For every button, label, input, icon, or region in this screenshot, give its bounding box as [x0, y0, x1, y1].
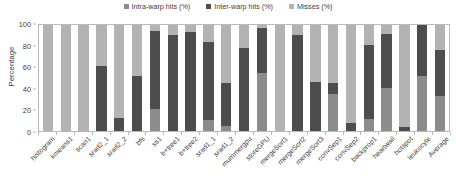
bar-segment-inter-warp [257, 28, 267, 73]
stacked-bar[interactable] [185, 25, 195, 131]
bar-slot[interactable] [182, 25, 200, 131]
bar-segment-misses [168, 25, 178, 35]
bar-slot[interactable] [39, 25, 57, 131]
y-tick-mark [33, 110, 36, 111]
bar-segment-intra-warp [150, 109, 160, 131]
y-axis-ticks: 020406080100 [0, 24, 36, 132]
legend-misses[interactable]: Misses (%) [289, 2, 333, 11]
plot-area [38, 24, 450, 132]
stacked-bar[interactable] [203, 25, 213, 131]
bar-segment-inter-warp [185, 32, 195, 131]
stacked-bar[interactable] [381, 25, 391, 131]
stacked-bar[interactable] [239, 25, 249, 131]
bar-segment-inter-warp [417, 25, 427, 76]
legend-label: Misses (%) [297, 2, 333, 11]
bar-segment-inter-warp [203, 42, 213, 120]
stacked-bar[interactable] [168, 25, 178, 131]
y-tick-label: 100 [0, 20, 31, 29]
bar-segment-misses [185, 25, 195, 32]
bar-segment-misses [399, 25, 409, 127]
stacked-bar[interactable] [435, 25, 445, 131]
y-tick-mark [33, 67, 36, 68]
stacked-bar-chart: Intra-warp hits (%)Inter-warp hits (%)Mi… [0, 0, 456, 184]
bar-slot[interactable] [217, 25, 235, 131]
bar-segment-inter-warp [96, 66, 106, 131]
bar-segment-inter-warp [150, 31, 160, 108]
bar-segment-misses [310, 25, 320, 82]
legend-inter-warp[interactable]: Inter-warp hits (%) [206, 2, 273, 11]
chart-legend: Intra-warp hits (%)Inter-warp hits (%)Mi… [0, 2, 456, 11]
legend-swatch-icon [206, 4, 211, 9]
bar-segment-misses [114, 25, 124, 118]
stacked-bar[interactable] [43, 25, 53, 131]
y-tick-mark [33, 132, 36, 133]
bar-segment-misses [292, 25, 302, 35]
legend-swatch-icon [124, 4, 129, 9]
y-tick-mark [33, 24, 36, 25]
bar-segment-misses [364, 25, 374, 45]
bar-segment-misses [221, 25, 231, 83]
bar-segment-misses [43, 25, 53, 131]
stacked-bar[interactable] [257, 25, 267, 131]
stacked-bar[interactable] [150, 25, 160, 131]
stacked-bar[interactable] [292, 25, 302, 131]
bar-segment-misses [328, 25, 338, 83]
bar-segment-misses [346, 25, 356, 123]
bar-segment-misses [96, 25, 106, 66]
bar-series-container [39, 25, 449, 131]
bar-slot[interactable] [128, 25, 146, 131]
bar-segment-inter-warp [364, 45, 374, 119]
y-tick-label: 40 [0, 84, 31, 93]
stacked-bar[interactable] [132, 25, 142, 131]
stacked-bar[interactable] [221, 25, 231, 131]
bar-slot[interactable] [164, 25, 182, 131]
bar-segment-misses [239, 25, 249, 48]
bar-segment-inter-warp [328, 83, 338, 94]
y-tick-label: 60 [0, 63, 31, 72]
y-tick-mark [33, 88, 36, 89]
bar-segment-inter-warp [168, 35, 178, 131]
stacked-bar[interactable] [96, 25, 106, 131]
stacked-bar[interactable] [399, 25, 409, 131]
x-axis-labels: histogramkmeans1scan1srad2_1srad2_2bfsss… [38, 135, 450, 184]
stacked-bar[interactable] [364, 25, 374, 131]
bar-slot[interactable] [235, 25, 253, 131]
bar-segment-misses [132, 25, 142, 76]
bar-segment-misses [435, 25, 445, 50]
bar-segment-misses [203, 25, 213, 42]
y-tick-label: 20 [0, 106, 31, 115]
bar-segment-inter-warp [381, 34, 391, 88]
y-tick-label: 0 [0, 128, 31, 137]
legend-label: Intra-warp hits (%) [132, 2, 191, 11]
stacked-bar[interactable] [417, 25, 427, 131]
bar-slot[interactable] [413, 25, 431, 131]
bar-segment-inter-warp [435, 50, 445, 96]
legend-intra-warp[interactable]: Intra-warp hits (%) [124, 2, 191, 11]
bar-slot[interactable] [199, 25, 217, 131]
bar-slot[interactable] [92, 25, 110, 131]
bar-segment-misses [381, 25, 391, 33]
bar-slot[interactable] [146, 25, 164, 131]
legend-swatch-icon [289, 4, 294, 9]
bar-slot[interactable] [110, 25, 128, 131]
legend-label: Inter-warp hits (%) [214, 2, 273, 11]
y-tick-mark [33, 45, 36, 46]
stacked-bar[interactable] [114, 25, 124, 131]
y-tick-label: 80 [0, 41, 31, 50]
